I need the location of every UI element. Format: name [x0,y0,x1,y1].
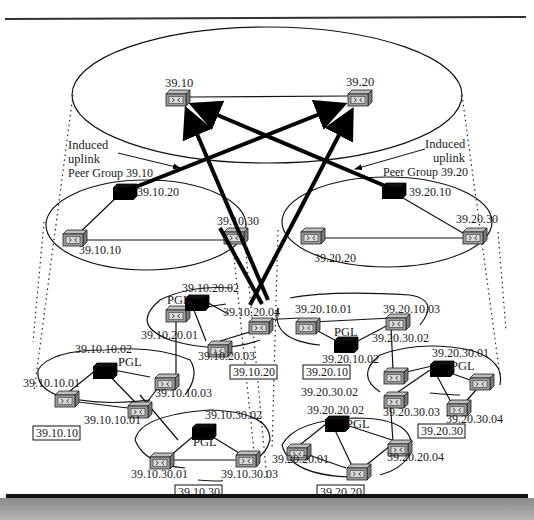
switch-icon [249,318,273,334]
group-box-label: 39.10.10 [36,426,78,440]
node-label: 39.20.30 [456,212,498,226]
node-label: 39.10.10 [79,243,121,257]
induced-uplink-arrows [128,106,390,305]
switch-icon [296,318,320,334]
node-label: 39.20.20.04 [387,450,444,464]
group-box-label: 39.20.10 [306,365,348,379]
node-label: 39.20.20.02 [307,403,364,417]
pgl-label: PGL [193,435,217,449]
node-label: 39.20.20 [314,251,356,265]
node-label: 39.20.10 [409,185,451,199]
footer-band [0,498,534,520]
node-label: 39.20.10.03 [383,302,440,316]
left-induced-label: Induced [68,138,109,152]
node-label: 39.10.20.03 [198,349,255,363]
right-induced-label: Induced [425,137,466,151]
pgl-node-icon [93,363,117,379]
pgl-node-icon [334,337,358,353]
node-label: 39.10.10.01 [23,376,80,390]
left-uplink-label: uplink [68,152,101,166]
switch-icon [386,314,410,330]
node-label: 39.10.10.03 [155,386,212,400]
node-label-39-20-30-02: 39.20.30.02 [301,385,358,399]
node-label: 39.20.20.01 [272,452,329,466]
node-label: 39.20.30.03 [383,405,440,419]
node-label: 39.10.30.02 [205,408,262,422]
top-rule [5,17,526,19]
switch-icon [236,451,260,467]
node-label-39-20: 39.20 [346,75,374,89]
node-label: 39.20.10.02 [322,352,379,366]
pgl-label: PGL [167,293,191,307]
left-peer-group-label: Peer Group 39.10 [68,166,153,180]
pgl-label: PGL [451,359,475,373]
switch-icon [55,391,79,407]
switch-icon [463,228,487,244]
node-label-39-10: 39.10 [165,76,193,90]
switch-icon [301,228,325,244]
node-label: 39.10.20.04 [223,305,280,319]
node-label: 39.10.10.02 [75,342,132,356]
top-peer-group-ellipse [72,27,462,163]
pnni-hierarchy-diagram: 39.10 39.20 Induced uplink Peer Group 39… [0,0,534,520]
switch-icon [347,464,371,480]
node-label: 39.10.30.01 [131,467,188,481]
node-label: 39.10.20 [137,185,179,199]
node-label: 39.20.10.01 [295,302,352,316]
node-label-39-20-30-02: 39.20.30.02 [372,331,429,345]
switch-icon [166,90,190,106]
node-label: 39.20.30.01 [432,346,489,360]
node-label: 39.10.20.01 [141,328,198,342]
group-box-label: 39.10.20 [233,365,275,379]
switch-icon [384,368,408,384]
group-box-label: 39.20.30 [421,424,463,438]
switch-icon [470,374,494,390]
switch-icon [348,90,372,106]
node-label: 39.10.10.01 [84,413,141,427]
right-uplink-label: uplink [433,151,466,165]
node-label: 39.10.30.03 [221,467,278,481]
pgl-label: PGL [346,417,370,431]
pgl-label: PGL [334,325,358,339]
node-label: 39.10.20.02 [182,281,239,295]
pgl-label: PGL [118,355,142,369]
